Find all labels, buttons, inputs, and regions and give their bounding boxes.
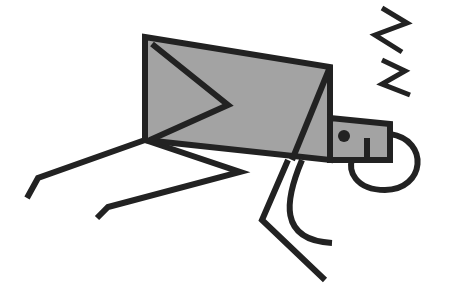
illustration-canvas bbox=[0, 0, 449, 306]
sleeping-figure-illustration bbox=[0, 0, 449, 306]
eye-icon bbox=[338, 130, 350, 142]
leg-curved bbox=[290, 160, 332, 243]
sleep-z-icon-top bbox=[375, 8, 407, 52]
arm-upper bbox=[27, 140, 145, 198]
sleep-z-icon-bottom bbox=[382, 60, 410, 95]
